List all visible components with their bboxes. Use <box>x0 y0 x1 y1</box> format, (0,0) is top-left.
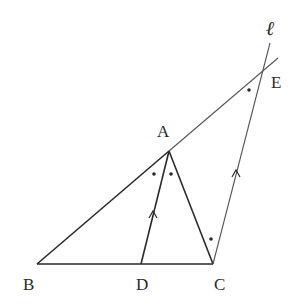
angle-dot-bad-icon <box>152 172 156 176</box>
label-d: D <box>136 275 148 294</box>
label-line-l: ℓ <box>266 16 275 40</box>
geometry-diagram: A B D C E ℓ <box>0 0 304 308</box>
angle-dot-ace-icon <box>209 237 213 241</box>
angle-dot-aec-icon <box>247 88 251 92</box>
label-e: E <box>271 73 281 92</box>
label-c: C <box>214 275 225 294</box>
line-ae-extended <box>169 58 278 151</box>
segment-ba <box>37 151 169 264</box>
segment-ad <box>141 151 169 264</box>
label-b: B <box>23 275 34 294</box>
segment-ac <box>169 151 213 264</box>
line-l <box>213 43 270 264</box>
label-a: A <box>157 122 170 141</box>
angle-dot-dac-icon <box>169 172 173 176</box>
